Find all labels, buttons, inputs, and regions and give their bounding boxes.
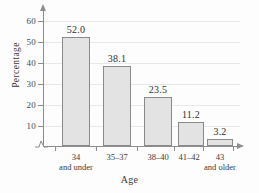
- x-axis-line: [43, 146, 237, 147]
- bar-38-40: [144, 97, 172, 146]
- bar-34-and-under: [62, 37, 90, 146]
- bar-value-34-and-under: 52.0: [52, 25, 100, 35]
- x-label-43-and-older: 43 and older: [190, 152, 250, 172]
- y-tick-60: [38, 21, 44, 22]
- bar-value-35-37: 38.1: [93, 54, 141, 64]
- bar-43-and-older: [207, 139, 233, 146]
- y-axis-arrow-icon: [40, 4, 46, 11]
- x-tick-3: [174, 146, 175, 151]
- y-tick-label-10: 10: [0, 122, 36, 131]
- x-tick-0: [55, 146, 56, 151]
- y-tick-30: [38, 84, 44, 85]
- bar-35-37: [103, 66, 131, 146]
- y-tick-50: [38, 42, 44, 43]
- x-tick-1: [96, 146, 97, 151]
- y-tick-10: [38, 126, 44, 127]
- x-tick-2: [137, 146, 138, 151]
- gridline-60: [44, 21, 240, 22]
- x-label-line2: and older: [190, 162, 250, 172]
- y-tick-20: [38, 105, 44, 106]
- x-label-line1: 43: [190, 152, 250, 162]
- bar-value-43-and-older: 3.2: [196, 127, 244, 137]
- x-axis-title: Age: [0, 174, 259, 185]
- x-tick-4: [203, 146, 204, 151]
- y-tick-40: [38, 63, 44, 64]
- bar-value-38-40: 23.5: [134, 85, 182, 95]
- bar-value-41-42: 11.2: [167, 110, 215, 120]
- x-label-line2: and under: [46, 162, 106, 172]
- bar-chart: 60 50 40 30 20 10 Percentage 52.0 38.1 2…: [0, 0, 259, 193]
- y-axis-title: Percentage: [11, 25, 21, 105]
- x-tick-5: [233, 146, 234, 151]
